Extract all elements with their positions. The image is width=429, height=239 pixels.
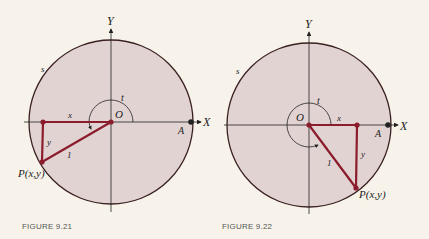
foot-point bbox=[354, 122, 359, 127]
hypotenuse-label: 1 bbox=[67, 150, 72, 160]
point-a-label: A bbox=[374, 128, 382, 139]
point-p bbox=[39, 159, 44, 164]
figure-caption: FIGURE 9.22 bbox=[222, 222, 273, 231]
origin-point bbox=[306, 122, 311, 127]
angle-label: t bbox=[121, 92, 124, 103]
angle-label: t bbox=[317, 95, 320, 106]
hypotenuse-label: 1 bbox=[327, 158, 332, 168]
point-p-label: P(x,y) bbox=[358, 188, 386, 201]
figure-9-22: Y X t O A s x y 1 P(x,y) FIGURE 9.22 bbox=[222, 17, 408, 231]
figure-caption: FIGURE 9.21 bbox=[22, 222, 73, 231]
y-axis-label: Y bbox=[107, 14, 115, 28]
x-axis-label: X bbox=[399, 119, 408, 133]
arc-label: s bbox=[236, 66, 240, 76]
y-leg-label: y bbox=[46, 137, 51, 147]
arc-label: s bbox=[41, 64, 45, 74]
y-leg bbox=[356, 125, 357, 188]
point-p bbox=[353, 185, 358, 190]
y-axis-label: Y bbox=[305, 17, 313, 31]
origin-label: O bbox=[296, 111, 304, 123]
point-p-label: P(x,y) bbox=[17, 167, 45, 180]
x-axis-label: X bbox=[202, 115, 211, 129]
figure-9-21: Y X t O A s x y 1 P(x,y) FIGURE 9.21 bbox=[17, 14, 211, 231]
origin-label: O bbox=[115, 108, 123, 120]
y-leg bbox=[42, 122, 43, 162]
origin-point bbox=[108, 119, 113, 124]
x-leg-label: x bbox=[67, 110, 72, 120]
y-leg-label: y bbox=[360, 149, 365, 159]
point-a bbox=[188, 119, 194, 125]
unit-circle-figures: Y X t O A s x y 1 P(x,y) FIGURE 9.21 Y X… bbox=[0, 0, 429, 239]
point-a-label: A bbox=[177, 125, 185, 136]
foot-point bbox=[40, 119, 45, 124]
x-leg-label: x bbox=[336, 113, 341, 123]
point-a bbox=[385, 122, 391, 128]
